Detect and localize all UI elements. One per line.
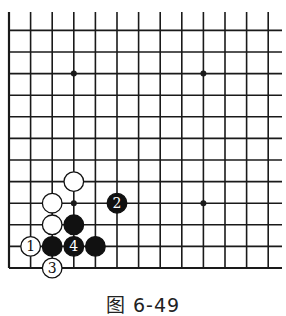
move-number: 3 — [48, 260, 57, 276]
black-stone-4: 4 — [64, 237, 84, 257]
move-number: 2 — [113, 195, 122, 211]
move-number: 1 — [26, 238, 35, 254]
figure-caption: 图 6-49 — [0, 290, 286, 316]
star-point — [200, 200, 206, 206]
white-stone — [64, 172, 84, 192]
white-stone-1: 1 — [21, 237, 41, 257]
star-point — [200, 71, 206, 77]
white-stone — [42, 215, 62, 235]
black-stone — [42, 237, 62, 257]
star-point — [71, 200, 77, 206]
star-point — [71, 71, 77, 77]
white-stone — [42, 193, 62, 213]
black-stone-2: 2 — [107, 193, 127, 213]
go-board: 1432 — [0, 0, 286, 285]
move-number: 4 — [69, 238, 78, 254]
black-stone — [86, 237, 106, 257]
white-stone-3: 3 — [42, 258, 62, 278]
black-stone — [64, 215, 84, 235]
